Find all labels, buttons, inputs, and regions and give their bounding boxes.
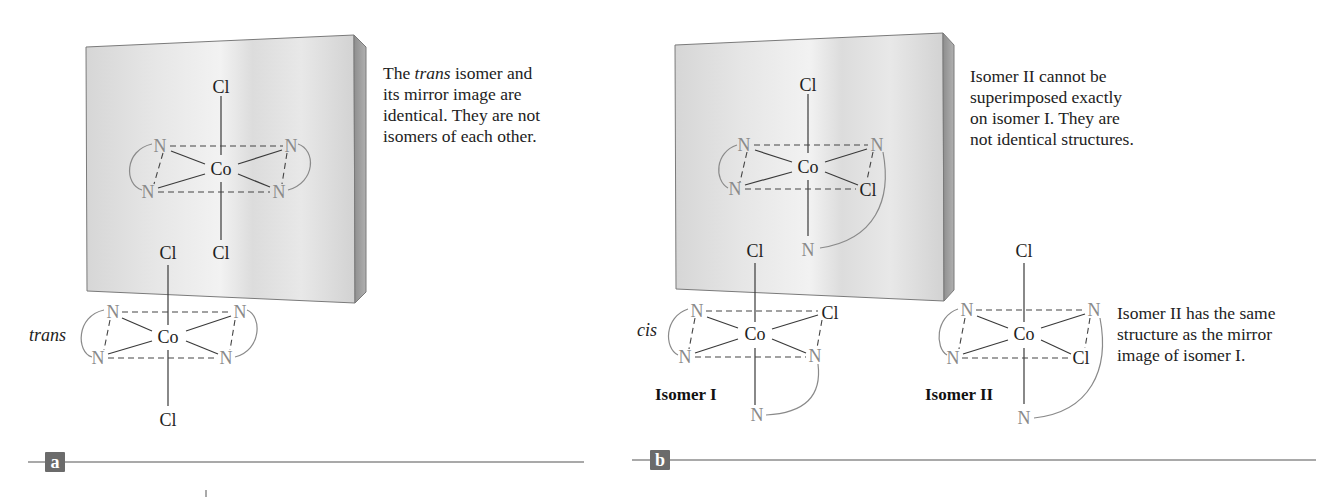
atom-co: Co xyxy=(744,324,765,344)
atom-co: Co xyxy=(157,327,178,347)
caption-line: on isomer I. They are xyxy=(970,108,1190,129)
panel-a-rule xyxy=(28,461,584,463)
caption-line: Isomer II cannot be xyxy=(970,66,1190,87)
atom-cl: Cl xyxy=(859,180,876,200)
atom-cl: Cl xyxy=(799,75,816,95)
caption-panel-a: The trans isomer and its mirror image ar… xyxy=(383,63,593,147)
atom-cl: Cl xyxy=(212,243,229,263)
atom-cl: Cl xyxy=(746,241,763,261)
trans-italic: trans xyxy=(415,63,451,83)
panel-b-label: b xyxy=(650,450,670,470)
isomer-ii-label: Isomer II xyxy=(925,385,994,404)
atom-cl: Cl xyxy=(159,243,176,263)
atom-n: N xyxy=(871,135,884,155)
atom-n: N xyxy=(285,136,298,156)
atom-co: Co xyxy=(797,157,818,177)
atom-co: Co xyxy=(210,159,231,179)
atom-n: N xyxy=(947,348,960,368)
atom-cl: Cl xyxy=(212,77,229,97)
caption-line: isomers of each other. xyxy=(383,126,593,147)
caption-line: The trans isomer and xyxy=(383,63,593,84)
isomer-i-label: Isomer I xyxy=(655,385,717,404)
atom-n: N xyxy=(691,301,704,321)
atom-n: N xyxy=(142,182,155,202)
atom-n: N xyxy=(751,405,764,425)
atom-n: N xyxy=(273,182,286,202)
atom-n: N xyxy=(809,346,822,366)
atom-n: N xyxy=(1018,408,1031,428)
caption-line: its mirror image are xyxy=(383,84,593,105)
cis-label: cis xyxy=(637,320,657,340)
atom-n: N xyxy=(679,347,692,367)
atom-n: N xyxy=(1088,300,1101,320)
caption-line: Isomer II has the same xyxy=(1117,303,1327,324)
caption-line: not identical structures. xyxy=(970,129,1190,150)
caption-line: identical. They are not xyxy=(383,105,593,126)
atom-n: N xyxy=(234,302,247,322)
figure: Cl N N Co N N Cl Cl N N Co N xyxy=(0,0,1340,499)
atom-cl: Cl xyxy=(159,410,176,430)
atom-n: N xyxy=(220,348,233,368)
atom-n: N xyxy=(107,302,120,322)
panel-a-label: a xyxy=(45,452,65,472)
atom-n: N xyxy=(729,179,742,199)
atom-n: N xyxy=(738,135,751,155)
atom-cl: Cl xyxy=(1072,348,1089,368)
caption-line: image of isomer I. xyxy=(1117,345,1327,366)
atom-co: Co xyxy=(1013,324,1034,344)
atom-cl: Cl xyxy=(821,303,838,323)
panel-b-rule xyxy=(632,459,1316,461)
caption-line: superimposed exactly xyxy=(970,87,1190,108)
caption-line: structure as the mirror xyxy=(1117,324,1327,345)
atom-n: N xyxy=(154,136,167,156)
atom-n: N xyxy=(92,348,105,368)
atom-n: N xyxy=(802,240,815,260)
caption-panel-b-top: Isomer II cannot be superimposed exactly… xyxy=(970,66,1190,150)
atom-n: N xyxy=(961,300,974,320)
caption-panel-b-isomer-ii: Isomer II has the same structure as the … xyxy=(1117,303,1327,366)
trans-label: trans xyxy=(29,325,66,345)
atom-cl: Cl xyxy=(1015,241,1032,261)
